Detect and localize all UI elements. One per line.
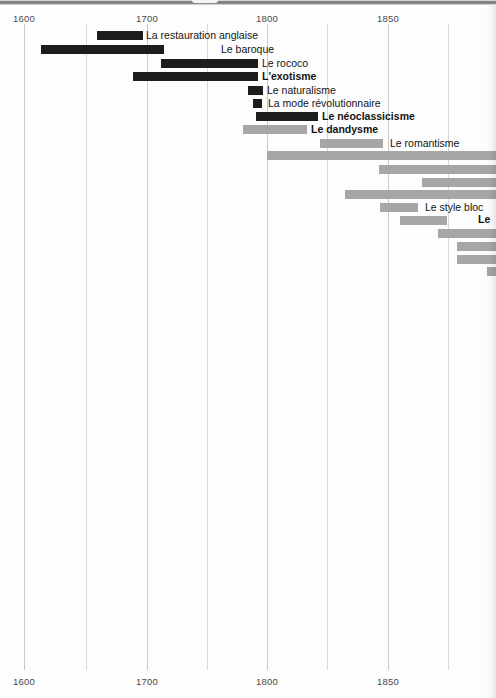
timeline-bar[interactable] bbox=[243, 125, 307, 134]
gridline bbox=[207, 24, 208, 670]
timeline-bar-label: Le rococo bbox=[262, 58, 308, 69]
timeline-bar-label: Le romantisme bbox=[390, 138, 459, 149]
axis-tick-label-bottom: 1600 bbox=[13, 676, 35, 687]
gridline bbox=[147, 24, 148, 670]
axis-tick-label-top: 1800 bbox=[256, 13, 278, 24]
gridline bbox=[86, 24, 87, 670]
timeline-bar-label: L'exotisme bbox=[262, 71, 316, 82]
gridline bbox=[448, 24, 449, 670]
timeline-bar[interactable] bbox=[161, 59, 258, 68]
timeline-bar[interactable] bbox=[248, 86, 263, 95]
axis-tick-label-bottom: 1850 bbox=[377, 676, 399, 687]
axis-tick-label-bottom: 1700 bbox=[136, 676, 158, 687]
axis-tick-label-top: 1600 bbox=[13, 13, 35, 24]
timeline-bar-label: Le baroque bbox=[221, 44, 274, 55]
timeline-bar[interactable] bbox=[256, 112, 318, 121]
timeline-bar[interactable] bbox=[253, 99, 262, 108]
timeline-bar[interactable] bbox=[438, 229, 496, 238]
timeline-bar-label: Le naturalisme bbox=[267, 85, 336, 96]
chart-page: 16001600170017001800180018501850La resta… bbox=[0, 0, 496, 698]
gridline bbox=[24, 24, 25, 670]
timeline-bar-label: La restauration anglaise bbox=[146, 30, 258, 41]
timeline-bar[interactable] bbox=[487, 267, 496, 276]
timeline-bar-label: Le style bloc bbox=[425, 202, 483, 213]
timeline-bar[interactable] bbox=[400, 216, 447, 225]
timeline-bar[interactable] bbox=[422, 178, 496, 187]
timeline-bar[interactable] bbox=[379, 165, 496, 174]
timeline-bar[interactable] bbox=[320, 139, 383, 148]
axis-tick-label-bottom: 1800 bbox=[256, 676, 278, 687]
timeline-bar[interactable] bbox=[41, 45, 164, 54]
timeline-bar[interactable] bbox=[133, 72, 258, 81]
timeline-bar-label: Le bbox=[478, 214, 490, 225]
timeline-bar-label: La mode révolutionnaire bbox=[268, 98, 381, 109]
timeline-bar[interactable] bbox=[97, 31, 143, 40]
timeline-bar[interactable] bbox=[345, 190, 496, 199]
timeline-bar[interactable] bbox=[457, 255, 496, 264]
timeline-bar-label: Le néoclassicisme bbox=[322, 111, 415, 122]
axis-tick-label-top: 1700 bbox=[136, 13, 158, 24]
timeline-bar[interactable] bbox=[380, 203, 418, 212]
timeline-plot-area: 16001600170017001800180018501850La resta… bbox=[0, 0, 496, 698]
timeline-bar-label: Le dandysme bbox=[311, 124, 378, 135]
axis-tick-label-top: 1850 bbox=[377, 13, 399, 24]
timeline-bar[interactable] bbox=[457, 242, 496, 251]
timeline-bar[interactable] bbox=[267, 151, 496, 160]
